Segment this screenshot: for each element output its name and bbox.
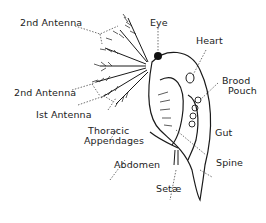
label-2nd-antenna-mid: 2nd Antenna <box>14 88 76 98</box>
leader-lines <box>72 26 218 200</box>
label-2nd-antenna-top: 2nd Antenna <box>20 18 82 28</box>
antennae-branches <box>92 14 148 107</box>
label-abdomen: Abdomen <box>114 160 160 170</box>
body-outline <box>149 52 211 200</box>
brood-eggs <box>189 97 201 127</box>
label-setae: Setæ <box>156 184 181 194</box>
label-spine: Spine <box>216 158 243 168</box>
setae-shape <box>174 150 178 165</box>
thoracic-appendages-shape <box>158 92 172 126</box>
label-1st-antenna: Ist Antenna <box>36 110 92 120</box>
label-heart: Heart <box>196 36 223 46</box>
label-thoracic-2: Appendages <box>84 136 144 146</box>
label-eye: Eye <box>150 18 168 28</box>
heart-shape <box>186 73 194 83</box>
eye-icon <box>154 52 162 60</box>
label-gut: Gut <box>215 128 232 138</box>
label-brood-2: Pouch <box>228 86 257 96</box>
